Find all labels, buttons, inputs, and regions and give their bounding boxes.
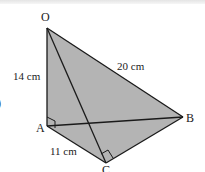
vertex-label-B: B [186,111,194,125]
tetrahedron-diagram: O A B C 14 cm 20 cm 11 cm ) [0,0,205,172]
length-label-OB: 20 cm [117,60,145,72]
margin-glyph: ) [0,96,1,110]
vertex-label-A: A [36,121,45,135]
vertex-label-O: O [41,10,50,24]
length-label-AC: 11 cm [50,145,77,157]
vertex-label-C: C [102,163,110,172]
length-label-OA: 14 cm [13,70,41,82]
